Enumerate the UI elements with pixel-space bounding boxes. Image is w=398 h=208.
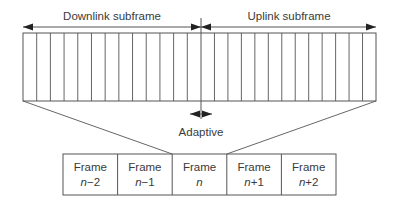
arrow-right-icon [191,24,201,31]
arrow-right-icon [202,111,212,118]
frame-label: Frame [183,161,216,173]
frame-index: n [196,176,202,188]
frame-index-offset: −2 [87,176,100,188]
downlink-label: Downlink subframe [63,10,161,22]
frame-index-offset: +2 [305,176,318,188]
arrow-left-icon [23,24,33,31]
expansion-line-left [23,101,172,154]
arrow-left-icon [201,24,211,31]
frame-label: Frame [128,161,161,173]
frame-label: Frame [292,161,325,173]
expansion-line-right [227,101,376,154]
subframe-arrows [23,24,376,118]
frame-index: n+1 [244,176,264,188]
arrow-left-icon [190,111,200,118]
arrow-right-icon [366,24,376,31]
adaptive-label: Adaptive [179,126,224,138]
frame-index: n+2 [299,176,319,188]
frame-index: n−1 [135,176,155,188]
frame-label: Frame [74,161,107,173]
frame-index-offset: +1 [251,176,264,188]
frame-index: n−2 [81,176,101,188]
frame-index-offset: −1 [142,176,155,188]
frame-label: Frame [237,161,270,173]
frame-index-variable: n [196,176,202,188]
tdd-frame-diagram: Framen−2Framen−1FramenFramen+1Framen+2 D… [0,0,398,208]
subframe-strip [23,33,376,101]
subframe-slots [23,18,376,119]
frame-sequence: Framen−2Framen−1FramenFramen+1Framen+2 [63,154,336,195]
uplink-label: Uplink subframe [247,10,330,22]
